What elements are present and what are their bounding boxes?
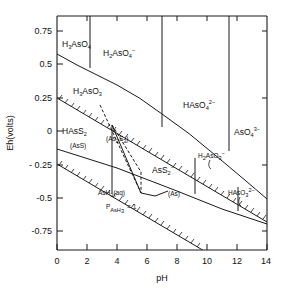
y-tick-05: 0.5 bbox=[39, 59, 52, 69]
y-tick-m075: -0.75 bbox=[31, 226, 52, 236]
x-tick-4: 4 bbox=[114, 256, 119, 266]
x-tick-0: 0 bbox=[54, 256, 59, 266]
x-tick-8: 8 bbox=[174, 256, 179, 266]
label-ash3-aq: AsH3(aq) bbox=[98, 189, 125, 198]
label-h3aso3: H3AsO3 bbox=[73, 86, 102, 97]
y-tick-m025: - 0.25 bbox=[29, 160, 52, 170]
chart-svg: 0 2 4 6 8 10 12 14 pH 0.75 0.5 0.25 0 - … bbox=[0, 0, 283, 294]
x-tick-10: 10 bbox=[202, 256, 212, 266]
boundary-as2s3-dashed-a bbox=[100, 105, 141, 193]
y-tick-025: 0.25 bbox=[34, 93, 52, 103]
label-h3aso4: H3AsO4 bbox=[62, 39, 91, 50]
x-axis-title: pH bbox=[156, 273, 168, 283]
x-tick-6: 6 bbox=[144, 256, 149, 266]
y-tick-m05: -0.5 bbox=[36, 193, 52, 203]
y-axis-title: Eh(volts) bbox=[5, 115, 15, 151]
label-h2aso4-minus: H2AsO4− bbox=[103, 47, 135, 59]
eh-ph-diagram: 0 2 4 6 8 10 12 14 pH 0.75 0.5 0.25 0 - … bbox=[0, 0, 283, 294]
x-tick-12: 12 bbox=[232, 256, 242, 266]
y-tick-075: 0.75 bbox=[34, 26, 52, 36]
label-hass2: HAsS2 bbox=[62, 126, 87, 137]
label-pash3: PAsH3= 1 bbox=[106, 203, 137, 214]
x-tick-labels: 0 2 4 6 8 10 12 14 bbox=[54, 256, 271, 266]
y-tick-0: 0 bbox=[47, 126, 52, 136]
label-haso4-2minus: HAsO42− bbox=[183, 99, 215, 111]
x-tick-14: 14 bbox=[261, 256, 271, 266]
x-tick-2: 2 bbox=[84, 256, 89, 266]
y-tick-labels: 0.75 0.5 0.25 0 - 0.25 -0.5 -0.75 bbox=[29, 26, 52, 236]
water-stability-lower bbox=[57, 161, 267, 288]
label-ass2-minus: AsS2− bbox=[152, 164, 174, 176]
leader-h2aso3 bbox=[209, 160, 211, 169]
label-aso4-3minus: AsO43− bbox=[234, 126, 260, 138]
label-ass-mineral: (AsS) bbox=[70, 142, 86, 150]
label-haso3-2minus: HAsO32− bbox=[228, 187, 255, 198]
label-h2aso3-minus: H2AsO3− bbox=[198, 150, 225, 161]
label-as-native: (As) bbox=[168, 190, 180, 198]
